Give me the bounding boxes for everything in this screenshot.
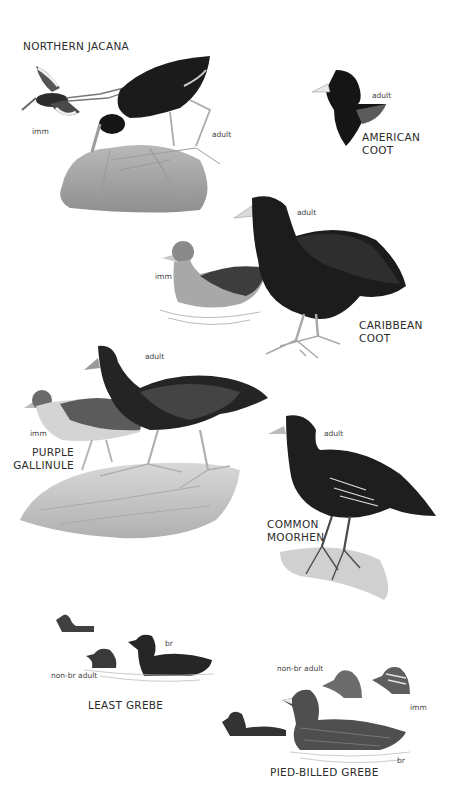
label-american-coot-adult: adult bbox=[372, 91, 391, 100]
field-guide-plate: NORTHERN JACANA AMERICAN COOT CARIBBEAN … bbox=[0, 0, 458, 801]
caribbean-coot-imm-illustration bbox=[160, 241, 266, 325]
common-moorhen-illustration bbox=[268, 415, 436, 600]
label-purple-gallinule-imm: imm bbox=[30, 429, 47, 438]
jacana-adult-illustration bbox=[60, 56, 220, 213]
label-purple-gallinule-adult: adult bbox=[145, 352, 164, 361]
pied-billed-grebe-illustration bbox=[222, 667, 410, 763]
label-pied-billed-grebe-br: br bbox=[397, 756, 405, 765]
species-name-purple-gallinule: PURPLE GALLINULE bbox=[6, 446, 74, 472]
label-pied-billed-grebe-non-br-adult: non-br adult bbox=[277, 664, 323, 673]
label-caribbean-coot-adult: adult bbox=[297, 208, 316, 217]
species-name-northern-jacana: NORTHERN JACANA bbox=[23, 40, 129, 53]
jacana-imm-illustration bbox=[22, 66, 126, 116]
label-common-moorhen-adult: adult bbox=[324, 429, 343, 438]
species-name-american-coot: AMERICAN COOT bbox=[362, 131, 420, 157]
species-name-least-grebe: LEAST GREBE bbox=[88, 699, 163, 712]
label-jacana-imm: imm bbox=[32, 127, 49, 136]
label-pied-billed-grebe-imm: imm bbox=[410, 703, 427, 712]
label-least-grebe-non-br-adult: non-br adult bbox=[51, 671, 97, 680]
species-name-common-moorhen: COMMON MOORHEN bbox=[267, 518, 324, 544]
species-name-caribbean-coot: CARIBBEAN COOT bbox=[359, 319, 423, 345]
purple-gallinule-adult-illustration bbox=[20, 346, 268, 538]
label-jacana-adult: adult bbox=[212, 130, 231, 139]
species-name-pied-billed-grebe: PIED-BILLED GREBE bbox=[270, 766, 379, 779]
label-caribbean-coot-imm: imm bbox=[155, 272, 172, 281]
label-least-grebe-br: br bbox=[165, 639, 173, 648]
illustrations bbox=[0, 0, 458, 801]
